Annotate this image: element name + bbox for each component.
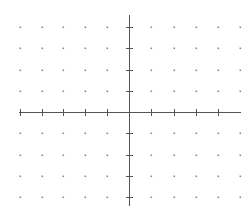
grid-dot [196, 48, 198, 50]
grid-dot [240, 133, 242, 135]
grid-dot [174, 155, 176, 157]
grid-dot [42, 70, 44, 72]
grid-dot [20, 176, 22, 178]
grid-dot [218, 70, 220, 72]
grid-dot [174, 91, 176, 93]
grid-dot [174, 133, 176, 135]
grid-dot [218, 197, 220, 199]
grid-dot [151, 91, 153, 93]
grid-dot [85, 155, 87, 157]
grid-dot [63, 48, 65, 50]
grid-dot [107, 155, 109, 157]
grid-dot [20, 133, 22, 135]
grid-dot [42, 197, 44, 199]
grid-dot [240, 48, 242, 50]
grid-dot [151, 197, 153, 199]
grid-dot [218, 133, 220, 135]
grid-dot [196, 91, 198, 93]
grid-dot [240, 27, 242, 29]
grid-dot [151, 27, 153, 29]
grid-dot [151, 70, 153, 72]
grid-dot [240, 155, 242, 157]
grid-dot [20, 197, 22, 199]
grid-dot [218, 91, 220, 93]
grid-dot [63, 27, 65, 29]
grid-dot [85, 48, 87, 50]
grid-dot [107, 48, 109, 50]
grid-dot [20, 27, 22, 29]
grid-dot [218, 176, 220, 178]
grid-dot [63, 133, 65, 135]
grid-dot [42, 133, 44, 135]
grid-dot [63, 176, 65, 178]
grid-dot [174, 197, 176, 199]
grid-dot [85, 197, 87, 199]
grid-dot [85, 70, 87, 72]
grid-dot [42, 48, 44, 50]
grid-dot [85, 176, 87, 178]
grid-dot [218, 48, 220, 50]
grid-dot [20, 70, 22, 72]
grid-dot [107, 133, 109, 135]
grid-dot [107, 197, 109, 199]
grid-dot [63, 197, 65, 199]
grid-dot [196, 197, 198, 199]
grid-dot [151, 176, 153, 178]
grid-dot [218, 27, 220, 29]
grid-dot [196, 70, 198, 72]
grid-dot [196, 133, 198, 135]
grid-dot [174, 27, 176, 29]
grid-dot [174, 176, 176, 178]
grid-dot [151, 48, 153, 50]
grid-dot [151, 133, 153, 135]
grid-dot [85, 133, 87, 135]
grid-dot [85, 27, 87, 29]
grid-dot [63, 70, 65, 72]
grid-dot [151, 155, 153, 157]
grid-dot [20, 48, 22, 50]
grid-dot [42, 27, 44, 29]
grid-dot [85, 91, 87, 93]
grid-dot [42, 155, 44, 157]
grid-dot [63, 155, 65, 157]
grid-dot [42, 91, 44, 93]
grid-dot [107, 91, 109, 93]
grid-dot [63, 91, 65, 93]
coordinate-grid [0, 0, 252, 213]
grid-dot [240, 176, 242, 178]
grid-dot [218, 155, 220, 157]
grid-dot [196, 27, 198, 29]
grid-dot [107, 27, 109, 29]
grid-dot [42, 176, 44, 178]
grid-dot [240, 70, 242, 72]
grid-dot [174, 70, 176, 72]
grid-dot [107, 70, 109, 72]
grid-dot [174, 48, 176, 50]
grid-dot [20, 155, 22, 157]
grid-dot [196, 155, 198, 157]
grid-dot [240, 197, 242, 199]
grid-dot [107, 176, 109, 178]
grid-dot [240, 91, 242, 93]
grid-dot [196, 176, 198, 178]
grid-dot [20, 91, 22, 93]
